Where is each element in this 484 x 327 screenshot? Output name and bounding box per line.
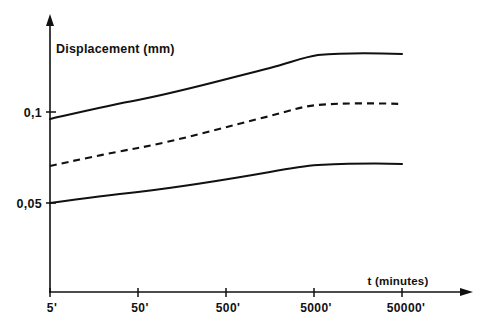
x-tick-label-2: 500': [216, 301, 240, 315]
axis-group: [46, 14, 473, 296]
chart-container: Displacement (mm) t (minutes) 0,1 0,05 5…: [0, 0, 484, 327]
x-tick-label-1: 50': [131, 301, 148, 315]
x-axis-arrow-icon: [460, 288, 473, 296]
x-tick-label-3: 5000': [300, 301, 332, 315]
y-tick-label-1: 0,05: [16, 197, 42, 211]
chart-canvas: Displacement (mm) t (minutes) 0,1 0,05 5…: [0, 0, 484, 327]
series-lower-bound: [50, 164, 402, 203]
y-axis-arrow-icon: [46, 14, 54, 26]
series-upper-bound: [50, 53, 402, 119]
series-group: [50, 53, 402, 203]
y-tick-marks: [46, 112, 56, 203]
y-axis-title: Displacement (mm): [56, 42, 175, 56]
y-tick-label-0: 0,1: [24, 106, 42, 120]
x-tick-label-4: 50000': [387, 301, 426, 315]
series-mean: [50, 103, 402, 166]
x-tick-label-0: 5': [47, 301, 57, 315]
x-axis-title: t (minutes): [368, 275, 429, 287]
